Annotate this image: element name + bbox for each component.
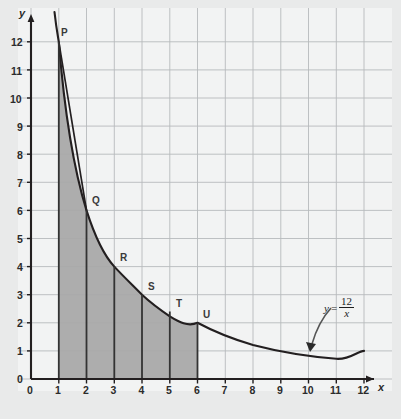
y-tick-label-5: 5 bbox=[17, 233, 23, 245]
x-tick-label-3: 3 bbox=[111, 384, 117, 396]
y-tick-label-4: 4 bbox=[17, 261, 23, 273]
point-label-Q: Q bbox=[92, 195, 100, 206]
y-tick-label-6: 6 bbox=[17, 205, 23, 217]
x-tick-label-9: 9 bbox=[277, 384, 283, 396]
point-label-P: P bbox=[61, 27, 68, 38]
chart-figure bbox=[0, 0, 401, 419]
equation-fraction: 12 x bbox=[339, 296, 354, 319]
y-tick-label-9: 9 bbox=[17, 121, 23, 133]
y-tick-label-11: 11 bbox=[11, 65, 22, 77]
y-tick-label-7: 7 bbox=[17, 177, 23, 189]
equation-lhs: y bbox=[324, 302, 329, 314]
equation-annotation: y = 12 x bbox=[324, 296, 354, 319]
y-tick-label-2: 2 bbox=[17, 317, 23, 329]
equation-equals: = bbox=[331, 302, 337, 314]
y-tick-label-12: 12 bbox=[11, 36, 23, 48]
point-label-T: T bbox=[176, 298, 182, 309]
y-tick-label-10: 10 bbox=[10, 93, 22, 105]
x-tick-label-5: 5 bbox=[166, 384, 172, 396]
x-tick-label-10: 10 bbox=[302, 384, 314, 396]
x-tick-label-7: 7 bbox=[222, 384, 228, 396]
x-axis-label: x bbox=[378, 381, 384, 393]
x-tick-label-11: 11 bbox=[330, 384, 341, 396]
y-tick-label-0: 0 bbox=[17, 373, 23, 385]
point-label-S: S bbox=[148, 281, 155, 292]
x-tick-label-1: 1 bbox=[55, 384, 61, 396]
x-tick-label-0: 0 bbox=[27, 384, 33, 396]
x-tick-label-2: 2 bbox=[83, 384, 89, 396]
x-tick-label-6: 6 bbox=[194, 384, 200, 396]
x-tick-label-4: 4 bbox=[139, 384, 145, 396]
point-label-U: U bbox=[203, 309, 210, 320]
point-label-R: R bbox=[120, 252, 127, 263]
y-tick-label-8: 8 bbox=[17, 149, 23, 161]
x-tick-label-8: 8 bbox=[250, 384, 256, 396]
y-tick-label-1: 1 bbox=[17, 345, 23, 357]
x-tick-label-12: 12 bbox=[358, 384, 370, 396]
y-axis-label: y bbox=[19, 7, 25, 19]
y-tick-label-3: 3 bbox=[17, 289, 23, 301]
equation-denominator: x bbox=[342, 308, 351, 319]
